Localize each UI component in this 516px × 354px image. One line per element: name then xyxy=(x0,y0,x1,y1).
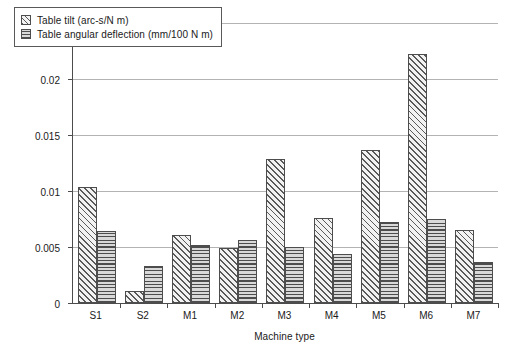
x-tick-mark xyxy=(498,303,499,308)
bar-group xyxy=(404,23,451,303)
y-tick-mark: 0 xyxy=(68,303,73,304)
x-tick-mark xyxy=(404,303,405,308)
x-tick-mark xyxy=(309,303,310,308)
x-tick-label-s1: S1 xyxy=(72,310,119,321)
y-tick-label: 0.015 xyxy=(35,131,60,142)
plot-area: 00.0050.010.0150.020.025 xyxy=(72,23,498,304)
x-tick-mark xyxy=(167,303,168,308)
bar-table-angular-deflection xyxy=(285,247,304,303)
bar-table-tilt xyxy=(266,159,285,303)
bar-group xyxy=(73,23,120,303)
x-tick-mark xyxy=(120,303,121,308)
x-tick-label-m4: M4 xyxy=(308,310,355,321)
bar-table-angular-deflection xyxy=(474,262,493,303)
x-axis-tick-labels: S1S2M1M2M3M4M5M6M7 xyxy=(72,310,497,321)
x-tick-label-m3: M3 xyxy=(261,310,308,321)
bar-table-tilt xyxy=(455,230,474,303)
legend-swatch-horizontal-lines-icon xyxy=(21,29,31,39)
bar-group xyxy=(451,23,498,303)
bar-table-tilt xyxy=(219,248,238,303)
bar-chart-figure: Relative compliance 00.0050.010.0150.020… xyxy=(0,0,516,354)
bar-groups xyxy=(73,23,498,303)
y-tick-label: 0.02 xyxy=(41,75,60,86)
legend-item-table-angular-deflection: Table angular deflection (mm/100 N m) xyxy=(21,27,213,41)
bar-table-tilt xyxy=(361,150,380,303)
bar-group xyxy=(356,23,403,303)
bar-table-angular-deflection xyxy=(333,254,352,303)
bar-table-tilt xyxy=(78,187,97,303)
x-tick-label-m5: M5 xyxy=(355,310,402,321)
x-tick-label-m2: M2 xyxy=(214,310,261,321)
bar-table-angular-deflection xyxy=(238,240,257,303)
legend-label-table-tilt: Table tilt (arc-s/N m) xyxy=(37,15,129,26)
x-axis-title: Machine type xyxy=(72,331,497,342)
bar-table-tilt xyxy=(314,218,333,303)
bar-table-angular-deflection xyxy=(97,231,116,303)
y-tick-label: 0.005 xyxy=(35,243,60,254)
legend-item-table-tilt: Table tilt (arc-s/N m) xyxy=(21,13,213,27)
legend: Table tilt (arc-s/N m) Table angular def… xyxy=(14,7,222,47)
bar-table-angular-deflection xyxy=(380,222,399,303)
bar-table-tilt xyxy=(125,291,144,303)
y-tick-label: 0.01 xyxy=(41,187,60,198)
bar-table-angular-deflection xyxy=(427,219,446,303)
bar-group xyxy=(167,23,214,303)
x-tick-label-m7: M7 xyxy=(450,310,497,321)
y-tick-label: 0 xyxy=(54,299,60,310)
x-tick-mark xyxy=(356,303,357,308)
bar-group xyxy=(120,23,167,303)
x-tick-mark xyxy=(262,303,263,308)
x-tick-mark xyxy=(451,303,452,308)
bar-table-angular-deflection xyxy=(191,245,210,303)
legend-label-table-angular-deflection: Table angular deflection (mm/100 N m) xyxy=(37,29,213,40)
bar-table-tilt xyxy=(408,54,427,303)
legend-swatch-diagonal-hatch-icon xyxy=(21,15,31,25)
bar-group xyxy=(262,23,309,303)
x-tick-label-m6: M6 xyxy=(403,310,450,321)
x-tick-label-s2: S2 xyxy=(119,310,166,321)
bar-table-tilt xyxy=(172,235,191,303)
bar-group xyxy=(215,23,262,303)
bar-table-angular-deflection xyxy=(144,266,163,303)
x-tick-mark xyxy=(215,303,216,308)
bar-group xyxy=(309,23,356,303)
x-tick-label-m1: M1 xyxy=(166,310,213,321)
